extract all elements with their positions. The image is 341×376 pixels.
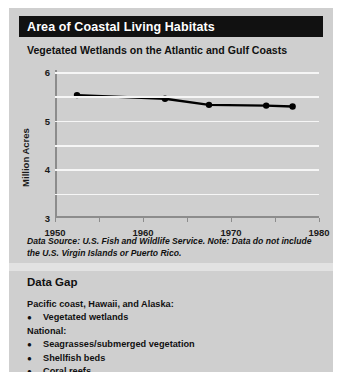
x-tick: 2010 (319, 218, 320, 222)
gridline: 1 (55, 194, 319, 196)
y-axis-title: Million Acres (20, 108, 31, 208)
figure-panel: Area of Coastal Living Habitats Vegetate… (9, 8, 333, 372)
gridline: 3 (55, 145, 319, 147)
bullet-icon: ● (27, 368, 43, 372)
bullet-icon: ● (27, 355, 43, 364)
y-tick-label: 6 (45, 67, 50, 78)
bullet-icon: ● (27, 314, 43, 323)
panel-title-bar: Area of Coastal Living Habitats (19, 16, 323, 37)
x-tick: 1960 (99, 218, 100, 222)
data-gap-title: Data Gap (27, 276, 78, 288)
x-tick: 1980 (187, 218, 188, 222)
page-title: Area of Coastal Living Habitats (19, 20, 215, 34)
section-divider (9, 263, 333, 271)
y-tick-label: 5 (45, 115, 50, 126)
data-point (289, 103, 295, 109)
chart-container: Million Acres 01234561950196019701980199… (9, 60, 333, 230)
list-item: ●Shellfish beds (27, 353, 317, 364)
data-gap-group-label: Pacific coast, Hawaii, and Alaska: (27, 299, 317, 309)
x-tick: 2000 (275, 218, 276, 222)
gridline: 2 (55, 169, 319, 171)
list-item: ●Seagrasses/submerged vegetation (27, 339, 317, 350)
y-tick-label: 4 (45, 164, 50, 175)
data-gap-group-label: National: (27, 326, 317, 336)
plot-area: 01234561950196019701980199020002010 (55, 72, 319, 218)
list-item-label: Seagrasses/submerged vegetation (43, 339, 195, 349)
list-item: ●Coral reefs (27, 366, 317, 372)
list-item-label: Vegetated wetlands (43, 312, 128, 322)
data-point (263, 102, 269, 108)
gridline: 6 (55, 72, 319, 74)
data-point (206, 102, 212, 108)
chart-subtitle: Vegetated Wetlands on the Atlantic and G… (27, 44, 287, 56)
list-item-label: Coral reefs (43, 366, 91, 372)
list-item-label: Shellfish beds (43, 353, 105, 363)
bullet-icon: ● (27, 341, 43, 350)
data-source-note: Data Source: U.S. Fish and Wildlife Serv… (27, 236, 319, 259)
y-tick-label: 3 (45, 213, 50, 224)
data-gap-section: Data Gap Pacific coast, Hawaii, and Alas… (9, 271, 333, 372)
gridline: 5 (55, 96, 319, 98)
x-tick: 1990 (231, 218, 232, 222)
data-gap-list: Pacific coast, Hawaii, and Alaska:●Veget… (27, 299, 317, 372)
x-tick: 1970 (143, 218, 144, 222)
list-item: ●Vegetated wetlands (27, 312, 317, 323)
gridline: 4 (55, 121, 319, 123)
x-tick: 1950 (55, 218, 56, 222)
